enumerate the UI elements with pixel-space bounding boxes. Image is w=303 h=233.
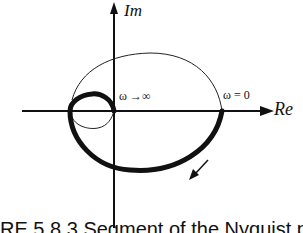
direction-arrow-icon — [189, 160, 208, 180]
thin-small-loop — [70, 111, 114, 128]
thick-contour — [70, 94, 222, 171]
nyquist-diagram — [0, 0, 303, 233]
omega-zero-label: ω = 0 — [223, 88, 250, 103]
imaginary-axis — [110, 2, 118, 228]
omega-infinity-label: ω →∞ — [119, 89, 150, 104]
figure-caption: RE 5.8.3 Segment of the Nyquist plot — [0, 218, 303, 233]
real-axis — [22, 106, 274, 116]
re-axis-label: Re — [274, 99, 293, 120]
im-axis-label: Im — [124, 1, 142, 21]
